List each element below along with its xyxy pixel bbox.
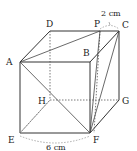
edge-ad [20, 31, 50, 62]
label-b: B [83, 48, 90, 58]
label-pc-length: 2 cm [101, 9, 121, 18]
label-c: C [122, 20, 129, 30]
diagonal-af [20, 62, 90, 133]
label-e: E [8, 135, 15, 145]
pc-dimension-leader [109, 22, 110, 25]
label-f: F [93, 135, 99, 145]
label-d: D [46, 19, 53, 29]
label-p: P [94, 19, 100, 29]
label-edge-length: 6 cm [46, 143, 66, 151]
label-h: H [38, 96, 46, 106]
pc-dimension-arc [100, 26, 119, 30]
label-a: A [5, 57, 13, 67]
edge-dimension-arc [20, 136, 90, 143]
cube-diagram: A B C D E F G H P 2 cm 6 cm [0, 0, 137, 151]
label-g: G [122, 96, 129, 106]
segment-fp [90, 31, 100, 133]
